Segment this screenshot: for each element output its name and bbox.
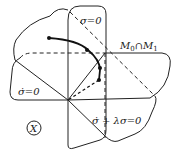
label-sigma-zero: σ=0 xyxy=(80,15,102,26)
label-intersection: M0∩M1 xyxy=(119,40,158,53)
trajectory-curve xyxy=(49,38,100,80)
plane-sigma-dot-zero-right xyxy=(68,53,170,100)
space-symbol-X: X xyxy=(29,123,38,134)
plane-sigma-zero xyxy=(68,6,106,149)
trajectory-return xyxy=(68,80,99,100)
trajectory-point-2 xyxy=(98,66,102,70)
label-M0: M0∩M1 xyxy=(119,40,158,53)
trajectory-point-1 xyxy=(85,48,89,52)
trajectory-start-point xyxy=(47,36,51,40)
space-symbol: X xyxy=(27,121,41,135)
label-sliding-surface: σ̇ + λσ=0 xyxy=(92,115,142,126)
label-sigma-dot-zero: σ̇=0 xyxy=(18,86,40,97)
trajectory-point-3 xyxy=(97,78,101,82)
manifold-diagram: σ=0 σ̇=0 σ̇ + λσ=0 M0∩M1 X xyxy=(0,0,179,152)
